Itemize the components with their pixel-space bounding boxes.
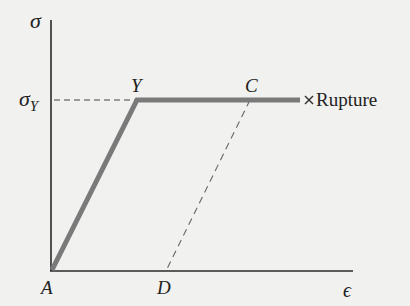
rupture-label: Rupture	[316, 90, 377, 109]
yield-stress-symbol: σ	[19, 86, 30, 111]
point-c-label: C	[245, 76, 258, 95]
rupture-marker-icon	[305, 96, 313, 104]
unloading-dashed-line	[166, 100, 250, 271]
point-y-label: Y	[131, 76, 142, 95]
point-a-label: A	[41, 278, 53, 297]
y-axis-label: σ	[30, 10, 41, 32]
stress-strain-curve	[52, 100, 300, 270]
yield-stress-label: σY	[19, 88, 38, 110]
stress-strain-diagram	[0, 0, 410, 306]
point-d-label: D	[157, 278, 171, 297]
x-axis-label: ϵ	[343, 280, 351, 300]
yield-stress-subscript: Y	[30, 98, 38, 114]
